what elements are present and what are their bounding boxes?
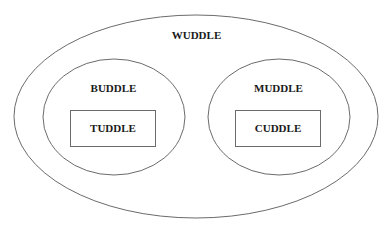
label-tuddle: TUDDLE xyxy=(90,122,136,134)
nested-venn-diagram: WUDDLE BUDDLE TUDDLE MUDDLE CUDDLE xyxy=(0,0,391,229)
label-muddle: MUDDLE xyxy=(254,82,303,94)
inner-ellipse-muddle xyxy=(208,59,350,175)
label-buddle: BUDDLE xyxy=(91,82,137,94)
inner-ellipse-buddle xyxy=(43,59,185,175)
label-wuddle: WUDDLE xyxy=(172,29,222,41)
outer-ellipse-wuddle xyxy=(14,15,378,218)
label-cuddle: CUDDLE xyxy=(255,122,301,134)
